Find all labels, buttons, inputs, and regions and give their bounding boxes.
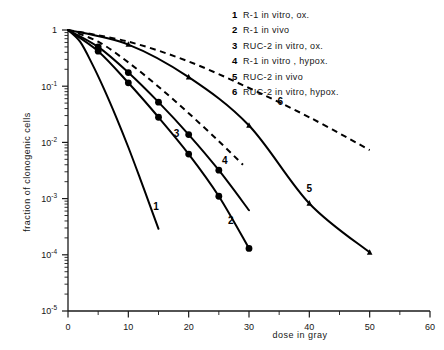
legend-number-3: 3 <box>232 40 237 51</box>
x-axis-ticks <box>68 311 430 318</box>
x-tick-label: 0 <box>65 322 70 332</box>
y-tick-exponent: -1 <box>51 80 57 87</box>
marker-circle-2 <box>125 79 132 86</box>
marker-circle-2 <box>215 193 222 200</box>
chart-figure: 110-110-210-310-410-5 fraction of clonog… <box>0 0 444 350</box>
y-tick-label: 10-4 <box>41 248 57 260</box>
curve-tag-5: 5 <box>307 183 313 194</box>
curve-number-tags: 123456 <box>153 96 312 226</box>
legend-number-1: 1 <box>232 9 238 20</box>
y-tick-exponent: -2 <box>51 136 57 143</box>
legend-label-4: R-1 in vitro , hypox. <box>243 56 328 66</box>
curve-tag-1: 1 <box>153 201 159 212</box>
y-axis-ticks <box>62 30 68 311</box>
y-tick-label: 10-5 <box>41 304 57 316</box>
x-tick-label: 20 <box>184 322 194 332</box>
curve-2 <box>68 30 249 248</box>
legend-label-3: RUC-2 in vitro, ox. <box>243 41 323 51</box>
x-axis: 0102030405060 dose in gray <box>65 311 435 340</box>
x-tick-label: 30 <box>244 322 254 332</box>
curve-tag-6: 6 <box>278 96 284 107</box>
marker-circle-2 <box>246 245 253 252</box>
x-tick-label: 10 <box>123 322 133 332</box>
marker-circle-3 <box>185 131 192 138</box>
y-axis-tick-labels: 110-110-210-310-410-5 <box>41 25 57 316</box>
marker-circle-3 <box>125 69 132 76</box>
marker-circle-3 <box>155 99 162 106</box>
legend-number-5: 5 <box>232 71 238 82</box>
chart-canvas: 110-110-210-310-410-5 fraction of clonog… <box>0 0 444 350</box>
marker-circle-3 <box>95 44 102 51</box>
x-tick-label: 50 <box>365 322 375 332</box>
x-tick-label: 60 <box>425 322 435 332</box>
y-tick-label: 10-2 <box>41 136 57 148</box>
y-tick-exponent: -5 <box>51 304 57 311</box>
chart-legend: 1R-1 in vitro, ox.2R-1 in vivo3RUC-2 in … <box>232 9 339 97</box>
legend-label-6: RUC-2 in vitro, hypox. <box>243 87 339 97</box>
marker-circle-2 <box>155 114 162 121</box>
y-axis: 110-110-210-310-410-5 fraction of clonog… <box>22 25 68 316</box>
y-tick-label: 10-3 <box>41 192 57 204</box>
y-tick-label: 1 <box>52 25 57 35</box>
curve-tag-4: 4 <box>222 155 228 166</box>
legend-label-1: R-1 in vitro, ox. <box>243 10 309 20</box>
marker-circle-3 <box>215 167 222 174</box>
legend-number-4: 4 <box>232 55 238 66</box>
x-axis-title: dose in gray <box>272 330 327 340</box>
x-axis-tick-labels: 0102030405060 <box>65 322 435 332</box>
legend-number-2: 2 <box>232 24 237 35</box>
legend-label-5: RUC-2 in vivo <box>243 72 303 82</box>
y-tick-exponent: -3 <box>51 192 57 199</box>
y-tick-label: 10-1 <box>41 80 57 92</box>
y-axis-title: fraction of clonogenic cells <box>22 112 32 232</box>
y-tick-exponent: -4 <box>51 248 57 255</box>
legend-label-2: R-1 in vivo <box>243 25 289 35</box>
curve-tag-3: 3 <box>174 128 180 139</box>
marker-circle-2 <box>185 151 192 158</box>
legend-number-6: 6 <box>232 86 237 97</box>
curve-tag-2: 2 <box>228 215 234 226</box>
